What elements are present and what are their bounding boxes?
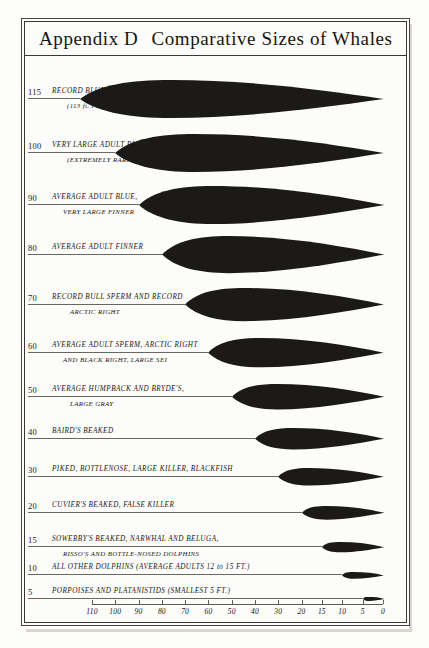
whale-silhouette (302, 505, 385, 521)
axis-tick-label: 110 (86, 607, 97, 616)
whale-silhouette (363, 596, 385, 602)
row-baseline-rule (28, 152, 115, 153)
axis-tick-label: 30 (274, 607, 282, 616)
row-tick-number: 5 (28, 587, 33, 597)
axis-tick-mark (302, 600, 303, 604)
whale-silhouette (139, 185, 385, 225)
row-tick-number: 40 (28, 427, 37, 437)
axis-tick-mark (139, 600, 140, 604)
row-label-secondary: ARCTIC RIGHT (70, 308, 120, 315)
row-label-primary: AVERAGE ADULT BLUE, (52, 193, 137, 201)
row-baseline-rule (28, 598, 363, 599)
row-baseline-rule (28, 546, 322, 547)
row-tick-number: 60 (28, 341, 37, 351)
row-tick-number: 20 (28, 501, 37, 511)
row-baseline-rule (28, 304, 185, 305)
axis-tick-label: 40 (251, 607, 259, 616)
axis-tick-mark (255, 600, 256, 604)
row-tick-number: 15 (28, 535, 37, 545)
row-baseline-rule (28, 204, 139, 205)
axis-tick-mark (162, 600, 163, 604)
axis-tick-mark (322, 600, 323, 604)
row-label-secondary: RISSO'S AND BOTTLE-NOSED DOLPHINS (63, 550, 199, 557)
axis-tick-label: 50 (228, 607, 236, 616)
axis-tick-mark (278, 600, 279, 604)
axis-tick-label: 0 (381, 607, 385, 616)
row-tick-number: 70 (28, 293, 37, 303)
row-label-primary: ALL OTHER DOLPHINS (AVERAGE ADULTS 12 to… (52, 563, 250, 571)
axis-baseline (92, 604, 383, 605)
axis-tick-mark (232, 600, 233, 604)
axis-tick-mark (342, 600, 343, 604)
frame-drop-shadow-bottom (26, 629, 412, 632)
whale-silhouette (278, 467, 385, 487)
axis-tick-label: 5 (361, 607, 365, 616)
whale-silhouette (322, 541, 385, 553)
whale-size-chart-plate: Appendix DComparative Sizes of Whales 11… (0, 0, 429, 648)
row-baseline-rule (28, 438, 255, 439)
row-tick-number: 10 (28, 563, 37, 573)
row-label-primary: AVERAGE ADULT FINNER (52, 243, 143, 251)
row-baseline-rule (28, 396, 232, 397)
row-label-primary: SOWERBY'S BEAKED, NARWHAL AND BELUGA, (52, 535, 219, 543)
axis-tick-label: 90 (135, 607, 143, 616)
axis-tick-label: 100 (109, 607, 121, 616)
axis-tick-label: 15 (318, 607, 326, 616)
axis-tick-label: 70 (181, 607, 189, 616)
row-label-primary: RECORD BULL SPERM AND RECORD (52, 293, 183, 301)
row-tick-number: 80 (28, 243, 37, 253)
row-label-primary: PIKED, BOTTLENOSE, LARGE KILLER, BLACKFI… (52, 465, 233, 473)
row-label-primary: AVERAGE HUMPBACK AND BRYDE'S, (52, 385, 184, 393)
whale-silhouette (232, 383, 385, 410)
axis-tick-label: 20 (298, 607, 306, 616)
axis-tick-mark (92, 600, 93, 604)
row-label-primary: BAIRD'S BEAKED (52, 427, 114, 435)
row-label-secondary: LARGE GRAY (70, 400, 113, 407)
row-label-secondary: AND BLACK RIGHT, LARGE SEI (63, 356, 167, 363)
whale-silhouette (185, 287, 385, 322)
row-tick-number: 90 (28, 193, 37, 203)
row-baseline-rule (28, 476, 278, 477)
row-baseline-rule (28, 98, 80, 99)
row-label-primary: PORPOISES AND PLATANISTIDS (SMALLEST 5 F… (52, 587, 230, 595)
row-label-primary: CUVIER'S BEAKED, FALSE KILLER (52, 501, 174, 509)
row-baseline-rule (28, 352, 208, 353)
axis-tick-mark (208, 600, 209, 604)
axis-tick-label: 60 (204, 607, 212, 616)
axis-tick-label: 80 (158, 607, 166, 616)
title-band: Appendix DComparative Sizes of Whales (25, 22, 406, 56)
whale-silhouette (115, 133, 385, 173)
bottom-axis: 1101009080706050403020151050 (25, 604, 406, 622)
whale-silhouette (208, 337, 385, 368)
row-tick-number: 50 (28, 385, 37, 395)
row-baseline-rule (28, 512, 302, 513)
whale-silhouette (255, 427, 385, 451)
whale-silhouette (80, 79, 385, 119)
axis-tick-mark (115, 600, 116, 604)
row-baseline-rule (28, 574, 342, 575)
axis-tick-mark (185, 600, 186, 604)
row-tick-number: 100 (28, 141, 42, 151)
row-label-secondary: VERY LARGE FINNER (63, 208, 134, 215)
row-label-primary: AVERAGE ADULT SPERM, ARCTIC RIGHT (52, 341, 198, 349)
chart-plot-area: 1101009080706050403020151050 115RECORD B… (25, 56, 406, 622)
row-baseline-rule (28, 254, 162, 255)
page-title: Appendix DComparative Sizes of Whales (25, 28, 393, 50)
axis-tick-label: 10 (338, 607, 346, 616)
row-tick-number: 30 (28, 465, 37, 475)
whale-silhouette (162, 235, 385, 274)
appendix-label: Appendix D (39, 28, 138, 49)
whale-silhouette (342, 571, 385, 580)
row-tick-number: 115 (28, 87, 41, 97)
title-main-text: Comparative Sizes of Whales (151, 28, 392, 49)
